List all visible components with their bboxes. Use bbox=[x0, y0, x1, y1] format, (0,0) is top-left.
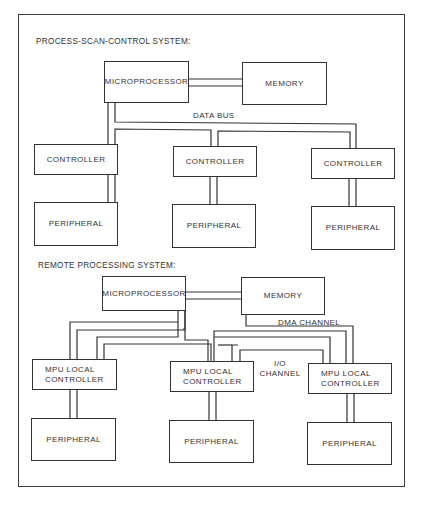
controller-label: CONTROLLER bbox=[47, 155, 106, 165]
memory-label: MEMORY bbox=[265, 79, 303, 89]
memory-box: MEMORY bbox=[242, 62, 327, 105]
peripheral-box: PERIPHERAL bbox=[34, 202, 118, 246]
peripheral-label: PERIPHERAL bbox=[322, 439, 377, 449]
microprocessor-label: MICROPROCESSOR bbox=[105, 77, 188, 87]
peripheral-label: PERIPHERAL bbox=[187, 221, 242, 231]
dma-channel-label: DMA CHANNEL bbox=[278, 318, 340, 328]
section-title-process-scan: PROCESS-SCAN-CONTROL SYSTEM: bbox=[36, 37, 191, 46]
peripheral-box: PERIPHERAL bbox=[31, 418, 116, 461]
mpu-local-controller-box: MPU LOCAL CONTROLLER bbox=[32, 359, 117, 390]
microprocessor-box: MICROPROCESSOR bbox=[104, 61, 189, 103]
mpu-local-controller-label: MPU LOCAL CONTROLLER bbox=[45, 365, 104, 385]
peripheral-box: PERIPHERAL bbox=[307, 422, 392, 465]
memory-label: MEMORY bbox=[264, 291, 302, 301]
mpu-local-controller-box: MPU LOCAL CONTROLLER bbox=[170, 361, 254, 392]
mpu-local-controller-label: MPU LOCAL CONTROLLER bbox=[183, 367, 242, 387]
peripheral-label: PERIPHERAL bbox=[49, 219, 104, 229]
section-title-remote-processing: REMOTE PROCESSING SYSTEM: bbox=[38, 261, 176, 270]
peripheral-label: PERIPHERAL bbox=[184, 437, 239, 447]
mpu-local-controller-box: MPU LOCAL CONTROLLER bbox=[308, 363, 392, 394]
peripheral-box: PERIPHERAL bbox=[172, 204, 256, 248]
microprocessor-label: MICROPROCESSOR bbox=[102, 289, 185, 299]
controller-label: CONTROLLER bbox=[324, 159, 383, 169]
controller-label: CONTROLLER bbox=[186, 157, 245, 167]
io-channel-label: I/O CHANNEL bbox=[258, 359, 302, 379]
peripheral-box: PERIPHERAL bbox=[169, 420, 254, 463]
data-bus-label: DATA BUS bbox=[193, 111, 235, 121]
controller-box: CONTROLLER bbox=[311, 148, 395, 179]
controller-box: CONTROLLER bbox=[173, 146, 257, 177]
controller-box: CONTROLLER bbox=[34, 144, 118, 175]
peripheral-box: PERIPHERAL bbox=[311, 206, 395, 250]
memory-box: MEMORY bbox=[241, 277, 325, 315]
peripheral-label: PERIPHERAL bbox=[326, 223, 381, 233]
peripheral-label: PERIPHERAL bbox=[46, 435, 101, 445]
mpu-local-controller-label: MPU LOCAL CONTROLLER bbox=[321, 369, 380, 389]
microprocessor-box: MICROPROCESSOR bbox=[102, 276, 186, 311]
